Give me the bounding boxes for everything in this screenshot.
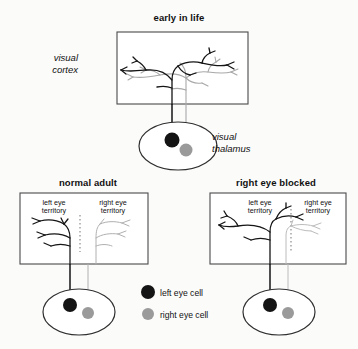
right-eye-territory-label-blocked: right eye territory (292, 199, 344, 215)
legend (141, 285, 155, 320)
visual-thalamus-label-line1: visual (212, 131, 251, 143)
right-eye-territory-line2-normal: territory (84, 207, 142, 215)
left-eye-cell-early (165, 133, 180, 148)
left-eye-territory-label-normal: left eye territory (26, 199, 82, 215)
figure-root: early in life normal adult right eye blo… (0, 0, 358, 349)
left-eye-territory-line2-blocked: territory (232, 207, 288, 215)
panel-title-right-eye-blocked: right eye blocked (196, 177, 356, 188)
thalamus-blocked (243, 289, 315, 335)
left-eye-cell-blocked (263, 298, 277, 312)
legend-right-eye-dot (142, 308, 154, 320)
panel-title-normal-adult: normal adult (8, 177, 168, 188)
visual-thalamus-label: visual thalamus (212, 131, 251, 154)
right-eye-cell-blocked (282, 307, 294, 319)
thalamus-early (139, 122, 217, 170)
visual-cortex-label: visual cortex (18, 52, 78, 75)
visual-thalamus-label-line2: thalamus (212, 143, 251, 155)
visual-cortex-label-line1: visual (18, 52, 78, 64)
right-eye-cell-normal (82, 307, 94, 319)
left-eye-cell-normal (63, 298, 77, 312)
right-eye-territory-line2-blocked: territory (292, 207, 344, 215)
cortex-box-early (117, 32, 248, 104)
left-eye-territory-label-blocked: left eye territory (232, 199, 288, 215)
legend-left-eye-dot (141, 285, 155, 299)
panel-title-early-in-life: early in life (0, 12, 358, 23)
thalamus-normal (43, 289, 115, 335)
right-eye-territory-label-normal: right eye territory (84, 199, 142, 215)
left-eye-territory-line2-normal: territory (26, 207, 82, 215)
right-eye-cell-early (180, 144, 193, 157)
visual-cortex-label-line2: cortex (18, 64, 78, 76)
legend-right-eye-cell-label: right eye cell (160, 310, 208, 320)
legend-left-eye-cell-label: left eye cell (160, 288, 203, 298)
